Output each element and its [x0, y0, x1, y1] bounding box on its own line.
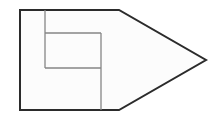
geometric-figure [0, 0, 221, 120]
pentagon-outline [20, 10, 206, 110]
figure-canvas [0, 0, 221, 120]
